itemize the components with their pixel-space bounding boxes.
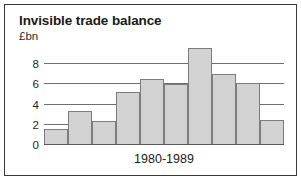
- bar-series: [44, 44, 284, 145]
- plot-area: [44, 44, 284, 145]
- chart-figure: Invisible trade balance £bn 02468 1980-1…: [0, 0, 301, 180]
- bar: [164, 84, 188, 145]
- y-axis-tick-label: 8: [33, 58, 39, 70]
- bar: [92, 121, 116, 145]
- bar: [236, 83, 260, 145]
- y-axis-tick-labels: 02468: [22, 44, 39, 145]
- y-axis-tick-label: 6: [33, 78, 39, 90]
- y-axis-tick-label: 0: [33, 139, 39, 151]
- chart-title: Invisible trade balance: [19, 13, 162, 28]
- bar: [68, 111, 92, 145]
- y-axis-unit-label: £bn: [19, 30, 38, 42]
- bar: [116, 92, 140, 145]
- x-axis-baseline: [44, 144, 284, 145]
- bar: [140, 79, 164, 145]
- y-axis-tick-label: 4: [33, 99, 39, 111]
- y-axis-tick-label: 2: [33, 119, 39, 131]
- bar: [188, 48, 212, 145]
- x-axis-label: 1980-1989: [44, 152, 284, 166]
- bar: [44, 129, 68, 145]
- bar: [260, 120, 284, 145]
- bar: [212, 74, 236, 145]
